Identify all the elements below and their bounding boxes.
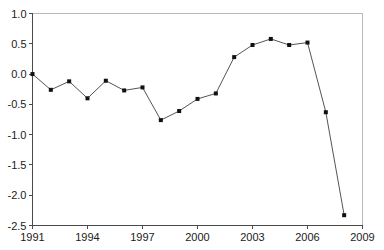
plot-border <box>33 14 363 226</box>
y-axis: 1.00.50.0-0.5-1.0-1.5-2.0-2.5 <box>8 8 33 232</box>
data-series <box>31 37 347 217</box>
y-tick-label: -2.0 <box>8 189 27 201</box>
data-point <box>232 55 236 59</box>
y-tick-label: -0.5 <box>8 98 27 110</box>
data-point <box>86 96 90 100</box>
x-tick-label: 1994 <box>75 231 99 243</box>
data-point <box>287 43 291 47</box>
data-point <box>342 213 346 217</box>
y-tick-label: -1.5 <box>8 159 27 171</box>
data-point <box>306 41 310 45</box>
data-point <box>269 37 273 41</box>
data-point <box>196 97 200 101</box>
data-point <box>214 91 218 95</box>
y-tick-label: 1.0 <box>11 8 26 20</box>
plot-frame <box>33 14 363 226</box>
x-tick-label: 2000 <box>185 231 209 243</box>
data-point <box>122 88 126 92</box>
line-chart: 1.00.50.0-0.5-1.0-1.5-2.0-2.5 1991199419… <box>0 0 384 250</box>
data-point <box>251 43 255 47</box>
x-tick-label: 1991 <box>20 231 44 243</box>
data-point <box>141 85 145 89</box>
data-point <box>104 79 108 83</box>
x-axis: 1991199419972000200320062009 <box>20 226 374 243</box>
x-tick-label: 2006 <box>295 231 319 243</box>
chart-canvas: 1.00.50.0-0.5-1.0-1.5-2.0-2.5 1991199419… <box>0 0 384 250</box>
x-tick-label: 2003 <box>240 231 264 243</box>
x-tick-label: 1997 <box>130 231 154 243</box>
data-point <box>31 72 35 76</box>
y-tick-label: -1.0 <box>8 129 27 141</box>
data-point <box>49 88 53 92</box>
y-tick-label: 0.0 <box>11 68 26 80</box>
data-point <box>177 109 181 113</box>
y-tick-label: 0.5 <box>11 38 26 50</box>
data-point <box>324 110 328 114</box>
data-point <box>159 118 163 122</box>
x-tick-label: 2009 <box>350 231 374 243</box>
data-point <box>67 79 71 83</box>
series-line <box>33 39 345 215</box>
